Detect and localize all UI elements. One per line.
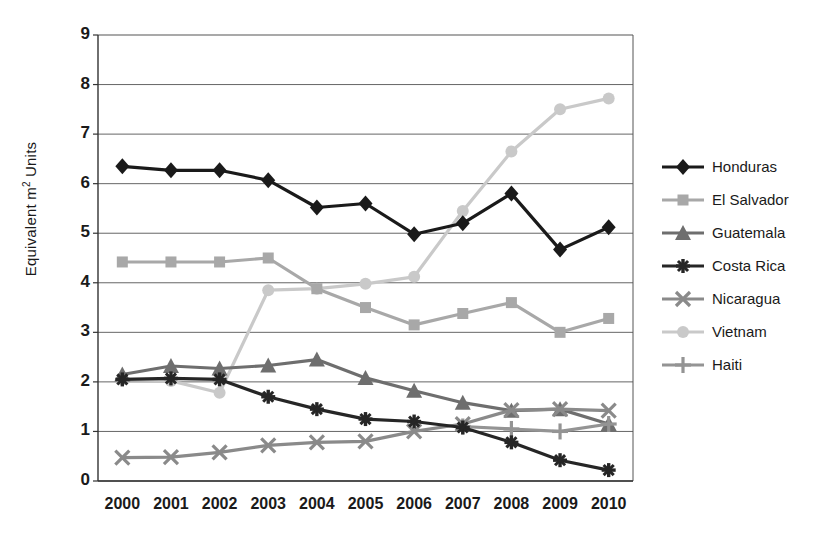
data-point-circle <box>554 103 566 115</box>
legend-swatch-plus-icon <box>660 355 706 375</box>
legend-item-el-salvador[interactable]: El Salvador <box>660 183 810 216</box>
legend-swatch-circle-icon <box>660 322 706 342</box>
data-point-square <box>409 319 420 330</box>
data-point-circle <box>457 205 469 217</box>
y-axis-title-text: Equivalent m <box>22 187 39 276</box>
data-point-square <box>360 302 371 313</box>
y-axis-tick-label: 2 <box>64 371 90 391</box>
data-point-square <box>165 256 176 267</box>
y-axis-tick-label: 7 <box>64 123 90 143</box>
y-axis-tick-label: 3 <box>64 321 90 341</box>
x-axis-tick-label: 2010 <box>581 495 637 513</box>
legend-item-vietnam[interactable]: Vietnam <box>660 315 810 348</box>
data-point-diamond <box>115 158 129 174</box>
x-axis-tick-label: 2000 <box>94 495 150 513</box>
y-axis-tick-label: 6 <box>64 173 90 193</box>
data-point-square <box>214 256 225 267</box>
y-axis-tick-label: 0 <box>64 470 90 490</box>
data-point-circle <box>214 387 226 399</box>
legend-label: Haiti <box>712 356 742 373</box>
y-axis-tick-label: 1 <box>64 420 90 440</box>
y-axis-title-superscript: 2 <box>21 181 32 187</box>
series-nicaragua <box>115 402 615 465</box>
x-axis-tick-label: 2007 <box>435 495 491 513</box>
data-point-circle <box>677 326 689 338</box>
series-line <box>122 98 608 392</box>
legend-item-honduras[interactable]: Honduras <box>660 150 810 183</box>
y-axis-tick-label: 8 <box>64 74 90 94</box>
x-axis-tick-label: 2008 <box>483 495 539 513</box>
legend-label: Honduras <box>712 158 777 175</box>
legend-label: Costa Rica <box>712 257 785 274</box>
x-axis-tick-label: 2001 <box>143 495 199 513</box>
legend-item-costa-rica[interactable]: Costa Rica <box>660 249 810 282</box>
legend-swatch-diamond-icon <box>660 157 706 177</box>
data-point-circle <box>408 271 420 283</box>
legend-label: Guatemala <box>712 224 785 241</box>
data-point-circle <box>603 92 615 104</box>
legend: HondurasEl SalvadorGuatemalaCosta RicaNi… <box>660 150 810 381</box>
data-point-square <box>603 313 614 324</box>
series-vietnam <box>116 92 614 398</box>
legend-label: Vietnam <box>712 323 767 340</box>
y-axis-tick-label: 4 <box>64 272 90 292</box>
data-point-circle <box>262 284 274 296</box>
y-axis-tick-label: 9 <box>64 24 90 44</box>
y-axis-title-suffix: Units <box>22 142 39 182</box>
data-point-circle <box>505 145 517 157</box>
y-axis-tick-label: 5 <box>64 222 90 242</box>
legend-label: Nicaragua <box>712 290 780 307</box>
legend-item-guatemala[interactable]: Guatemala <box>660 216 810 249</box>
x-axis-tick-label: 2009 <box>532 495 588 513</box>
x-axis-tick-label: 2002 <box>192 495 248 513</box>
data-point-diamond <box>164 162 178 178</box>
data-point-square <box>457 308 468 319</box>
data-point-diamond <box>359 195 373 211</box>
legend-label: El Salvador <box>712 191 789 208</box>
legend-item-haiti[interactable]: Haiti <box>660 348 810 381</box>
data-point-square <box>311 283 322 294</box>
x-axis-tick-label: 2005 <box>338 495 394 513</box>
data-point-square <box>678 194 689 205</box>
data-point-diamond <box>213 162 227 178</box>
data-point-circle <box>360 278 372 290</box>
y-axis-title: Equivalent m2 Units <box>21 99 39 319</box>
data-point-square <box>506 297 517 308</box>
legend-swatch-square-icon <box>660 190 706 210</box>
x-axis-tick-label: 2003 <box>240 495 296 513</box>
data-point-diamond <box>310 199 324 215</box>
legend-item-nicaragua[interactable]: Nicaragua <box>660 282 810 315</box>
x-axis-tick-label: 2006 <box>386 495 442 513</box>
chart-container: Equivalent m2 Units 0123456789 200020012… <box>0 0 817 560</box>
series-honduras <box>115 158 615 257</box>
data-point-square <box>263 253 274 264</box>
data-point-diamond <box>407 226 421 242</box>
legend-swatch-x-icon <box>660 289 706 309</box>
x-axis-tick-label: 2004 <box>289 495 345 513</box>
data-point-square <box>555 327 566 338</box>
legend-swatch-asterisk-icon <box>660 256 706 276</box>
series-line <box>122 258 608 332</box>
data-point-diamond <box>261 172 275 188</box>
data-point-square <box>117 256 128 267</box>
legend-swatch-triangle-icon <box>660 223 706 243</box>
data-point-diamond <box>676 159 690 175</box>
series-el-salvador <box>117 253 614 338</box>
series-line <box>463 424 609 431</box>
